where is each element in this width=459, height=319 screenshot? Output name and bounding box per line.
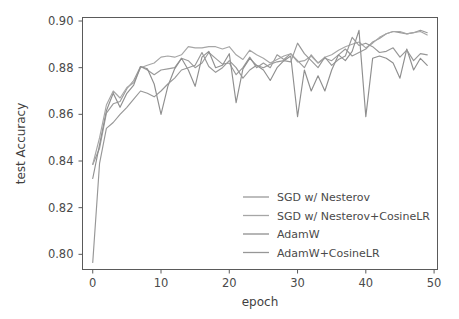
- x-tick-label: 20: [222, 276, 237, 290]
- x-tick-label: 40: [358, 276, 373, 290]
- y-tick-label: 0.86: [48, 107, 74, 121]
- x-tick-label: 0: [89, 276, 96, 290]
- y-tick-label: 0.90: [48, 14, 74, 28]
- y-axis-title: test Accuracy: [14, 103, 28, 185]
- x-axis-title: epoch: [242, 295, 279, 309]
- y-tick-label: 0.84: [48, 154, 74, 168]
- x-tick-label: 50: [427, 276, 442, 290]
- legend-label-1: SGD w/ Nesterov+CosineLR: [277, 210, 430, 223]
- x-tick-label: 10: [154, 276, 169, 290]
- x-tick-label: 30: [290, 276, 305, 290]
- chart-figure: 010203040500.800.820.840.860.880.90 epoc…: [0, 0, 459, 319]
- legend-label-0: SGD w/ Nesterov: [277, 191, 370, 204]
- legend-label-2: AdamW: [277, 228, 320, 241]
- y-tick-label: 0.82: [48, 201, 74, 215]
- line-chart: 010203040500.800.820.840.860.880.90 epoc…: [0, 0, 459, 319]
- legend-label-3: AdamW+CosineLR: [277, 247, 380, 260]
- y-tick-label: 0.80: [48, 247, 74, 261]
- y-tick-label: 0.88: [48, 61, 74, 75]
